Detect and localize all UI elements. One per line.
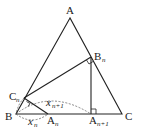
label-xn1-sub: n+1 (52, 102, 64, 110)
label-xn: x (27, 115, 33, 127)
label-cn-sub: n (16, 96, 20, 104)
label-c: C (125, 110, 132, 122)
label-xn1: x (45, 96, 51, 108)
segment-cn-an (24, 98, 48, 114)
label-an: A (47, 114, 55, 126)
label-an1-sub: n+1 (97, 120, 109, 128)
triangle-abc (16, 18, 122, 114)
label-bn: B (94, 50, 101, 62)
label-an1: A (89, 114, 97, 126)
triangle-diagram: A B C B n C n A n A n+1 x n x n+1 (0, 0, 141, 134)
label-a: A (66, 4, 74, 16)
label-an-sub: n (55, 120, 59, 128)
label-xn-sub: n (34, 121, 38, 129)
segment-cn-bn (24, 57, 91, 98)
right-angle-bn (87, 60, 94, 64)
label-bn-sub: n (102, 56, 106, 64)
label-b: B (5, 110, 12, 122)
